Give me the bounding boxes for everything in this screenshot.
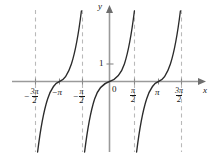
x-tick-label-neg-pi: − π [52, 88, 62, 97]
fraction-numerator: 3π [174, 87, 184, 95]
tangent-graph-figure: y x 0 1 − 3π 2 − π − π 2 [0, 0, 217, 163]
y-axis [106, 5, 114, 152]
minus-sign: − [52, 88, 57, 97]
origin-label: 0 [112, 85, 117, 94]
x-axis-arrow [198, 78, 206, 85]
minus-sign: − [24, 92, 29, 101]
fraction-denominator: 2 [130, 95, 136, 104]
x-tick-label-neg-3pi-over-2: − 3π 2 [24, 86, 40, 105]
fraction-denominator: 2 [32, 96, 38, 105]
minus-sign: − [73, 92, 78, 101]
fraction-numerator: π [130, 87, 136, 95]
x-tick-label-pi: π [155, 88, 160, 97]
y-axis-arrow [106, 5, 113, 13]
pi-symbol: π [155, 87, 160, 97]
y-tick-label-one: 1 [99, 59, 104, 68]
fraction-denominator: 2 [176, 95, 182, 104]
x-tick-label-pi-over-2: π 2 [130, 86, 136, 104]
pi-symbol: π [58, 88, 63, 97]
graph-canvas [0, 0, 217, 163]
x-tick-label-neg-pi-over-2: − π 2 [73, 86, 85, 105]
fraction-numerator: π [79, 88, 85, 96]
x-tick-label-3pi-over-2: 3π 2 [174, 86, 184, 104]
fraction-numerator: 3π [30, 88, 40, 96]
y-axis-label: y [98, 2, 102, 11]
fraction-denominator: 2 [79, 96, 85, 105]
x-axis-label: x [203, 86, 207, 95]
